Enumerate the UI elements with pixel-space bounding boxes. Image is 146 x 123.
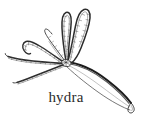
hydra-figure: hydra [0,0,146,123]
hydra-illustration [0,0,146,123]
